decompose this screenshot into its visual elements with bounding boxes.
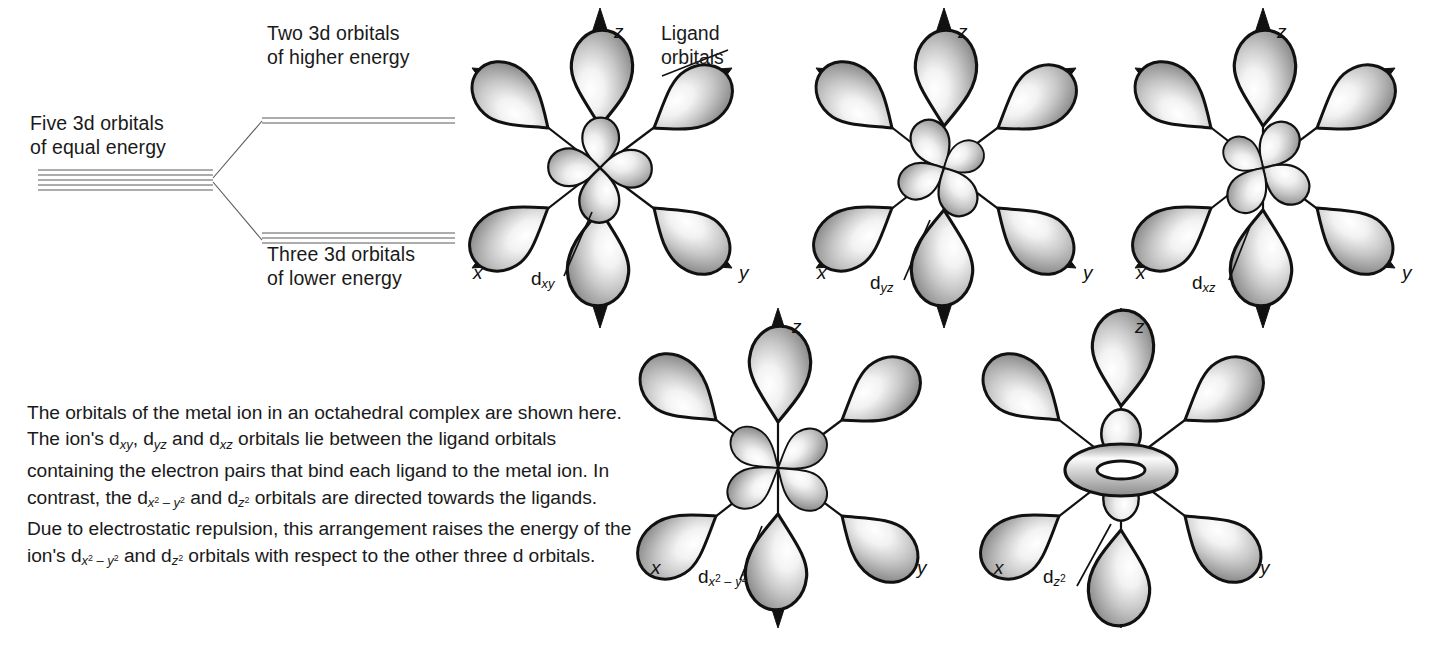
dz2-torus [1065, 444, 1177, 496]
figure-canvas: Five 3d orbitals of equal energy Two 3d … [0, 0, 1442, 657]
paragraph-seg-3: and d [167, 428, 220, 449]
axis-label-y-dx2-y2: y [917, 557, 927, 579]
paragraph-sub-x2y2-a: x2 – y2 [148, 495, 185, 510]
orbital-diagram-dyz [784, 8, 1114, 328]
paragraph-seg-5: and d [185, 487, 238, 508]
paragraph-sub-xy: xy [120, 437, 133, 452]
energy-levels-upper [262, 118, 455, 123]
orbital-label-dz2-main: d [1043, 566, 1054, 587]
ligand-lobe-upper-left [804, 49, 911, 149]
minus-sign: – [721, 574, 735, 589]
ligand-lobe-bottom [911, 210, 972, 306]
energy-levels-five [38, 170, 213, 190]
orbital-label-dx2-y2: dx2 – y2 [698, 566, 747, 589]
ligand-lobe-upper-left [1123, 49, 1230, 149]
ligand-lobe-top [749, 326, 810, 422]
ligand-lobe-bottom [1088, 530, 1149, 626]
paragraph-sub-xz: xz [220, 437, 233, 452]
axis-label-z-dxy: z [614, 21, 624, 43]
orbital-label-dxz: dxz [1192, 272, 1215, 295]
orbital-label-dxy: dxy [531, 268, 554, 291]
paragraph-sub-yz: yz [154, 437, 167, 452]
ligand-lobe-upper-right [1169, 344, 1276, 444]
ligand-lobe-lower-right [1166, 494, 1273, 594]
axis-label-y-dxz: y [1402, 262, 1412, 284]
explanatory-paragraph: The orbitals of the metal ion in an octa… [27, 400, 637, 574]
splitting-connector-lines [213, 121, 262, 240]
paragraph-seg-2: , d [133, 428, 154, 449]
axis-label-x-dx2-y2: x [651, 557, 661, 579]
orbital-label-dx2-y2-sub: x2 – y2 [709, 574, 748, 589]
orbital-label-dyz-main: d [870, 272, 881, 293]
axis-label-x-dxy: x [473, 262, 483, 284]
sup-y-2: 2 [742, 573, 748, 584]
orbital-label-dxy-main: d [531, 268, 542, 289]
central-d-orbital-dxy [548, 118, 652, 223]
paragraph-sub-z2-b: z2 [172, 553, 183, 568]
ligand-lobe-bottom [1230, 210, 1291, 306]
label-two-3d-orbitals-higher: Two 3d orbitals of higher energy [267, 22, 410, 70]
axis-label-y-dz2: y [1260, 557, 1270, 579]
axis-label-x-dz2: x [994, 557, 1004, 579]
axis-label-y-dxy: y [739, 262, 749, 284]
orbital-label-dxz-main: d [1192, 272, 1203, 293]
axis-label-y-dyz: y [1083, 262, 1093, 284]
ligand-lobe-upper-left [460, 49, 567, 149]
ligand-lobe-lower-right [635, 186, 742, 286]
orbital-label-dz2: dz2 [1043, 566, 1066, 589]
axis-label-z-dyz: z [958, 21, 968, 43]
orbital-label-dyz: dyz [870, 272, 893, 295]
orbital-label-dx2-y2-main: d [698, 566, 709, 587]
ligand-lobe-lower-right [1298, 186, 1405, 286]
ligand-lobe-upper-right [1301, 52, 1408, 152]
ligand-lobe-top [915, 30, 976, 126]
orbital-label-dxy-sub: xy [542, 276, 555, 291]
ligand-lobe-bottom [567, 210, 628, 306]
axis-label-z-dz2: z [1135, 316, 1145, 338]
ligand-lobe-bottom [745, 514, 806, 610]
axis-label-x-dyz: x [817, 262, 827, 284]
paragraph-sub-x2y2-b: x2 – y2 [82, 553, 119, 568]
ligand-lobe-top [1234, 30, 1295, 126]
callout-ligand-orbitals: Ligand orbitals [661, 22, 724, 70]
ligand-lobe-lower-right [823, 494, 930, 594]
paragraph-sub-z2-a: z2 [238, 495, 249, 510]
label-three-3d-orbitals-lower: Three 3d orbitals of lower energy [267, 243, 415, 291]
ligand-lobe-upper-right [982, 52, 1089, 152]
axis-label-x-dxz: x [1136, 262, 1146, 284]
ligand-lobe-upper-left [971, 341, 1078, 441]
orbital-label-dz2-sub: z2 [1054, 574, 1066, 589]
orbital-diagram-dz2 [961, 303, 1291, 633]
energy-levels-lower [262, 233, 455, 243]
axis-label-z-dx2-y2: z [792, 316, 802, 338]
orbital-label-dxz-sub: xz [1203, 280, 1216, 295]
label-five-3d-orbitals: Five 3d orbitals of equal energy [30, 112, 166, 160]
orbital-diagram-dxz [1103, 8, 1433, 328]
axis-label-z-dxz: z [1277, 21, 1287, 43]
sup-z-2: 2 [1060, 573, 1066, 584]
paragraph-seg-7: and d [119, 545, 172, 566]
orbital-label-dyz-sub: yz [881, 280, 894, 295]
paragraph-seg-8: orbitals with respect to the other three… [183, 545, 595, 566]
orbital-diagram-dx2-y2 [618, 303, 948, 633]
ligand-lobe-top [571, 30, 632, 126]
ligand-lobe-upper-right [826, 344, 933, 444]
central-d-orbital-dz2 [1065, 409, 1177, 520]
ligand-lobe-lower-right [979, 186, 1086, 286]
ligand-lobe-upper-left [628, 341, 735, 441]
